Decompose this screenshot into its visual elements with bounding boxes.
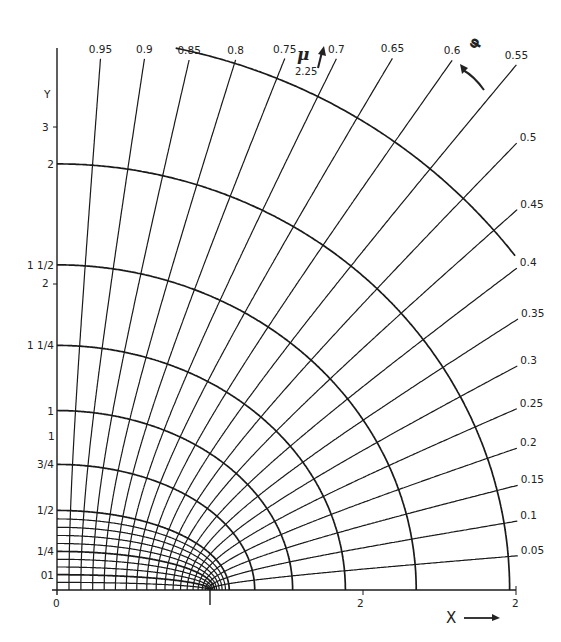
hyperbola-label-0-5: 0.5 bbox=[520, 131, 537, 143]
ellipse-mu-1-75 bbox=[57, 164, 510, 590]
hyperbola-label-0-4: 0.4 bbox=[520, 256, 537, 268]
phi-symbol: φ bbox=[464, 34, 483, 52]
ellipse-label-1: 1 bbox=[47, 405, 54, 417]
y-tick-2: 2 bbox=[42, 277, 49, 289]
hyperbola-label-0-65: 0.65 bbox=[381, 42, 404, 54]
labels: 011/41/23/411 1/41 1/220.050.10.150.20.2… bbox=[27, 42, 544, 580]
hyperbola-0-75 bbox=[115, 59, 284, 591]
hyperbola-0-9 bbox=[81, 59, 145, 590]
ellipse-mu-2 bbox=[176, 48, 515, 256]
x-tick-3: 2 bbox=[512, 597, 519, 609]
ellipse-label-0-5: 1/2 bbox=[37, 504, 54, 516]
ellipse-label-0-25: 1/4 bbox=[37, 545, 54, 557]
x-arrowhead-icon bbox=[492, 614, 500, 621]
x-tick-2: 2 bbox=[357, 597, 364, 609]
hyperbola-label-0-6: 0.6 bbox=[444, 44, 461, 56]
mu-symbol: μ bbox=[297, 44, 309, 64]
ellipse-label-1-75: 2 bbox=[47, 158, 54, 170]
phi-arrow-icon bbox=[463, 70, 484, 90]
hyperbola-label-0-25: 0.25 bbox=[520, 397, 543, 409]
ellipse-label-0-1: 01 bbox=[41, 569, 54, 581]
hyperbola-label-0-1: 0.1 bbox=[520, 509, 537, 521]
hyperbola-0-2 bbox=[202, 448, 517, 590]
ellipse-mu-1-5 bbox=[57, 265, 416, 590]
ellipse-mu-1 bbox=[57, 411, 293, 591]
hyperbola-0-05 bbox=[209, 556, 518, 590]
hyperbola-label-0-95: 0.95 bbox=[89, 43, 112, 55]
hyperbola-label-0-8: 0.8 bbox=[227, 44, 244, 56]
y-tick-3: 3 bbox=[42, 121, 49, 133]
hyperbola-label-0-9: 0.9 bbox=[136, 43, 153, 55]
hyperbola-label-0-75: 0.75 bbox=[273, 43, 296, 55]
hyperbola-0-4 bbox=[181, 268, 517, 590]
y-axis-label: Y bbox=[43, 88, 51, 100]
hyperbola-0-6 bbox=[147, 60, 452, 590]
mu-value: 2.25 bbox=[295, 66, 317, 77]
phi-indicator: φ bbox=[460, 34, 484, 90]
grid-lines bbox=[57, 48, 518, 590]
elliptic-coordinate-chart: 011/41/23/411 1/41 1/220.050.10.150.20.2… bbox=[0, 0, 561, 642]
x-tick-0: 0 bbox=[53, 597, 60, 609]
ellipse-label-0-75: 3/4 bbox=[37, 458, 54, 470]
hyperbola-label-0-55: 0.55 bbox=[505, 49, 528, 61]
hyperbola-label-0-3: 0.3 bbox=[520, 354, 537, 366]
x-axis-label: X bbox=[446, 609, 456, 627]
ellipse-label-1-5: 1 1/2 bbox=[27, 259, 54, 271]
hyperbola-label-0-05: 0.05 bbox=[521, 544, 544, 556]
hyperbola-label-0-85: 0.85 bbox=[177, 44, 200, 56]
hyperbola-label-0-45: 0.45 bbox=[520, 198, 543, 210]
hyperbola-label-0-15: 0.15 bbox=[521, 473, 544, 485]
hyperbola-label-0-7: 0.7 bbox=[328, 43, 345, 55]
y-tick-1: 1 bbox=[48, 430, 55, 442]
ellipse-label-1-25: 1 1/4 bbox=[27, 339, 54, 351]
hyperbola-label-0-2: 0.2 bbox=[520, 436, 537, 448]
hyperbola-0-85 bbox=[93, 60, 190, 590]
mu-arrow-icon bbox=[318, 46, 326, 68]
hyperbola-label-0-35: 0.35 bbox=[521, 307, 544, 319]
hyperbola-0-5 bbox=[165, 143, 517, 590]
hyperbola-0-45 bbox=[173, 210, 517, 590]
